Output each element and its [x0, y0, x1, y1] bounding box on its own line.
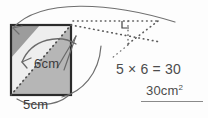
area-equation: 5 × 6 = 30: [116, 61, 181, 77]
answer-value: 30cm: [146, 83, 179, 98]
height-dimension-label: 6cm: [34, 56, 59, 71]
base-dimension-label: 5cm: [23, 97, 48, 112]
answer-exponent: 2: [179, 83, 184, 92]
answer-underline: [141, 101, 203, 102]
extended-diagonal-dotted: [71, 25, 160, 42]
lower-extension-dotted: [112, 45, 128, 58]
area-answer: 30cm2: [146, 83, 183, 98]
worksheet-figure-canvas: 6cm 5cm 5 × 6 = 30 30cm2: [0, 0, 208, 118]
